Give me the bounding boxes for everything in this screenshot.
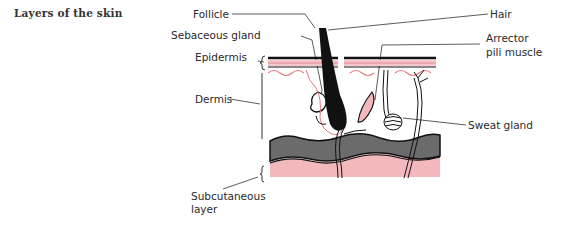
dermal-papillae	[268, 71, 431, 76]
brackets	[260, 56, 265, 182]
sweat-gland	[384, 114, 402, 130]
arrector-pili-muscle	[358, 92, 374, 122]
skin-cross-section-illustration	[0, 0, 570, 229]
epidermis-layer	[268, 58, 436, 67]
hair-follicle	[319, 28, 347, 131]
